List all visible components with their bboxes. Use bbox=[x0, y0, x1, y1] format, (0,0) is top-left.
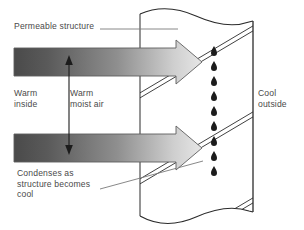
label-condenses-as-structure-becomes-cool: Condenses as structure becomes cool bbox=[17, 168, 90, 200]
label-cool-outside: Cool outside bbox=[258, 88, 287, 109]
condensation-droplets bbox=[211, 46, 217, 176]
label-warm-inside: Warm inside bbox=[14, 88, 37, 109]
label-permeable-structure: Permeable structure bbox=[14, 21, 94, 32]
label-warm-moist-air: Warm moist air bbox=[70, 88, 104, 109]
condensation-diagram: Permeable structure Warm inside Warm moi… bbox=[0, 0, 304, 230]
